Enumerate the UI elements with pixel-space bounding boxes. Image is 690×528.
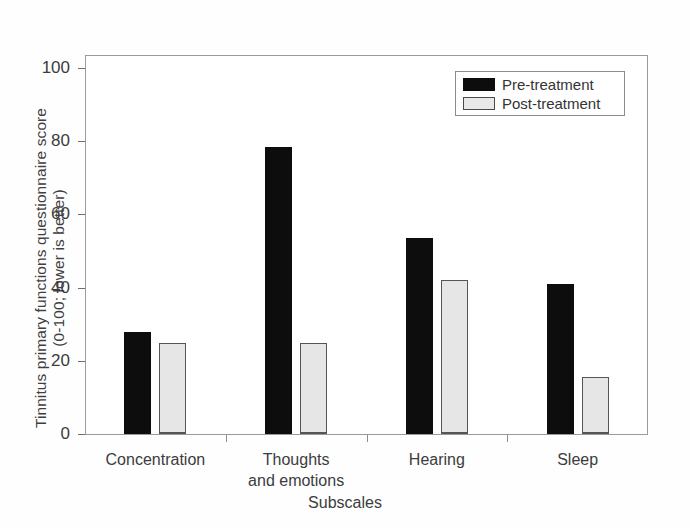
x-axis-tick-mark: [507, 435, 508, 442]
legend-item-post: Post-treatment: [463, 94, 618, 113]
bar-pre-treatment-2: [406, 238, 433, 434]
legend-swatch-post: [463, 97, 495, 110]
legend-swatch-pre: [463, 78, 495, 91]
bar-pre-treatment-0: [124, 332, 151, 434]
bar-post-treatment-1: [300, 343, 327, 435]
y-axis-tick-label: 0: [8, 424, 70, 444]
bar-post-treatment-2: [441, 280, 468, 434]
bar-chart-figure: Tinnitus primary functions questionnaire…: [0, 0, 690, 528]
legend-item-pre: Pre-treatment: [463, 75, 618, 94]
y-axis-tick-label: 100: [8, 58, 70, 78]
x-axis-title: Subscales: [0, 494, 690, 512]
legend-label: Post-treatment: [502, 95, 600, 112]
bar-pre-treatment-1: [265, 147, 292, 434]
bar-post-treatment-0: [159, 343, 186, 435]
chart-legend: Pre-treatmentPost-treatment: [455, 71, 625, 116]
x-axis-category-label-line: and emotions: [196, 470, 396, 491]
y-axis-title-line-1: Tinnitus primary functions questionnaire…: [32, 108, 50, 428]
bar-post-treatment-3: [582, 377, 609, 434]
x-axis-category-label-line: Sleep: [478, 449, 678, 470]
x-axis-category-label: Sleep: [478, 449, 678, 470]
y-axis-tick-label: 60: [8, 204, 70, 224]
y-axis-title: Tinnitus primary functions questionnaire…: [27, 58, 73, 478]
y-axis-tick-label: 40: [8, 278, 70, 298]
y-axis-tick-label: 80: [8, 131, 70, 151]
x-axis-tick-mark: [367, 435, 368, 442]
x-axis-tick-mark: [226, 435, 227, 442]
legend-label: Pre-treatment: [502, 76, 594, 93]
y-axis-tick-label: 20: [8, 351, 70, 371]
bar-pre-treatment-3: [547, 284, 574, 434]
